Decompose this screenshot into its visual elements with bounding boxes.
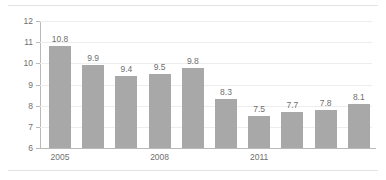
bar <box>49 46 71 148</box>
bar <box>248 116 270 148</box>
x-axis-tick-label: 2011 <box>250 152 268 162</box>
y-axis-tick-label: 8 <box>28 101 33 111</box>
y-axis-tick-mark <box>36 63 40 64</box>
bar-value-label: 7.5 <box>253 104 265 114</box>
y-axis-tick-label: 6 <box>28 143 33 153</box>
bar-value-label: 7.7 <box>286 100 298 110</box>
y-axis-tick-label: 9 <box>28 80 33 90</box>
bar <box>215 99 237 148</box>
bar-value-label: 10.8 <box>52 34 69 44</box>
bar-value-label: 7.8 <box>320 98 332 108</box>
y-axis-tick-mark <box>36 127 40 128</box>
x-axis-line <box>40 148 376 149</box>
bar-value-label: 9.4 <box>120 64 132 74</box>
bar-value-label: 9.5 <box>154 62 166 72</box>
plot-area: 678910111210.89.99.49.59.88.37.57.77.88.… <box>40 21 372 148</box>
page-rule-bottom <box>8 170 378 171</box>
y-axis-tick-label: 11 <box>24 37 33 47</box>
bar <box>149 74 171 148</box>
y-axis-tick-mark <box>36 148 40 149</box>
x-axis-tick-label: 2005 <box>51 152 70 162</box>
gridline <box>40 21 372 22</box>
bar <box>82 65 104 148</box>
bar <box>348 104 370 148</box>
y-axis-tick-mark <box>36 21 40 22</box>
y-axis-tick-label: 7 <box>28 122 33 132</box>
bar <box>281 112 303 148</box>
y-axis-tick-mark <box>36 106 40 107</box>
gridline <box>40 63 372 64</box>
bar <box>182 68 204 148</box>
y-axis-tick-label: 12 <box>24 16 33 26</box>
y-axis-tick-mark <box>36 85 40 86</box>
bar-chart-figure: 678910111210.89.99.49.59.88.37.57.77.88.… <box>0 0 386 180</box>
bar <box>115 76 137 148</box>
bar-value-label: 9.8 <box>187 56 199 66</box>
y-axis-tick-label: 10 <box>24 58 33 68</box>
x-axis-tick-label: 2008 <box>150 152 169 162</box>
page-rule-top <box>8 5 378 6</box>
bar <box>315 110 337 148</box>
gridline <box>40 42 372 43</box>
bar-value-label: 8.1 <box>353 92 365 102</box>
bar-value-label: 9.9 <box>87 53 99 63</box>
y-axis-tick-mark <box>36 42 40 43</box>
bar-value-label: 8.3 <box>220 87 232 97</box>
